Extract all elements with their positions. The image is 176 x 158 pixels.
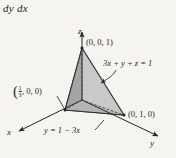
- vertex-x-dot: [64, 109, 67, 112]
- vertex-apex-dot: [80, 46, 83, 49]
- figure-canvas: [0, 0, 176, 158]
- point-label-x-suffix: , 0, 0): [22, 87, 42, 96]
- math-figure-tetrahedron: dy dx z x y (0, 0, 1) (0, 1, 0) ( 1 3 , …: [0, 0, 176, 158]
- leader-x-intercept: [57, 96, 64, 108]
- top-note-dydx: dy dx: [3, 3, 28, 14]
- point-label-y-intercept: (0, 1, 0): [128, 110, 155, 119]
- point-label-open-paren: (: [13, 84, 18, 99]
- point-label-x-intercept: ( 1 3 , 0, 0): [13, 84, 42, 99]
- vertex-y-dot: [123, 114, 126, 117]
- equation-plane: 3x + y + z = 1: [103, 59, 152, 68]
- axis-label-z: z: [78, 27, 82, 36]
- leader-plane-equation: [101, 70, 116, 83]
- axis-label-y: y: [150, 139, 154, 148]
- point-label-apex: (0, 0, 1): [86, 38, 113, 47]
- axis-label-x: x: [7, 128, 11, 137]
- leader-line-equation: [95, 120, 104, 130]
- equation-line: y = 1 − 3x: [44, 126, 80, 135]
